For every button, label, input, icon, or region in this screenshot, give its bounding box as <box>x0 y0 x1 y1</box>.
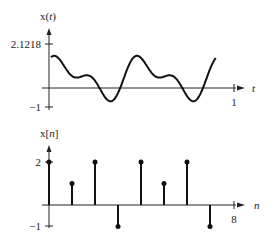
stem-marker <box>185 160 190 165</box>
top-ytick-min-label: −1 <box>29 101 41 113</box>
stem-marker <box>93 160 98 165</box>
top-ylabel: x(t) <box>40 10 56 23</box>
top-xtick-label: 1 <box>231 96 237 108</box>
stem-marker <box>139 160 144 165</box>
top-ytick-max-label: 2.1218 <box>11 38 42 50</box>
stem-marker <box>208 224 213 229</box>
top-x-arrow-icon <box>237 86 245 91</box>
top-plot: x(t) t 2.1218 −1 1 <box>11 10 256 113</box>
stem-marker <box>70 181 75 186</box>
bot-ytick-min-label: −1 <box>29 220 41 232</box>
bot-ytick-max-label: 2 <box>36 156 42 168</box>
bot-y-arrow-icon <box>47 145 52 152</box>
stem-marker <box>116 224 121 229</box>
bot-xlabel: n <box>254 199 260 211</box>
stem-marker <box>47 160 52 165</box>
bottom-plot: x[n] n 2 −1 8 <box>29 127 260 232</box>
signal-curve <box>51 56 216 102</box>
top-xlabel: t <box>252 82 256 94</box>
figure: x(t) t 2.1218 −1 1 x[n] n 2 −1 8 <box>0 0 275 245</box>
stems <box>47 160 213 230</box>
bot-x-arrow-icon <box>237 203 245 208</box>
stem-marker <box>162 181 167 186</box>
top-y-arrow-icon <box>47 28 52 35</box>
bot-xtick-label: 8 <box>231 213 237 225</box>
bot-ylabel: x[n] <box>40 127 58 139</box>
